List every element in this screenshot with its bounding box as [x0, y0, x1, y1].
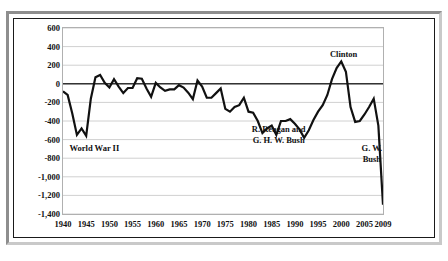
- x-tick-1995: 1995: [310, 219, 327, 229]
- y-tick-200: 200: [14, 60, 60, 70]
- y-tick--1000: -1,000: [14, 172, 60, 182]
- x-tick-1990: 1990: [286, 219, 303, 229]
- annotation-gwbush-line1: G. W.: [362, 143, 383, 154]
- x-tick-1940: 1940: [55, 219, 72, 229]
- x-tick-1945: 1945: [78, 219, 95, 229]
- annotation-reagan-bush: R. Reagan and G. H. W. Bush: [252, 124, 306, 146]
- x-tick-1965: 1965: [170, 219, 187, 229]
- y-tick--1400: -1,400: [14, 209, 60, 219]
- x-tick-2005: 2005: [356, 219, 373, 229]
- y-tick--1200: -1,200: [14, 190, 60, 200]
- y-tick--600: -600: [14, 135, 60, 145]
- annotation-reagan-line1: R. Reagan and: [252, 124, 306, 135]
- annotation-world-war-ii: World War II: [69, 143, 119, 154]
- y-tick-400: 400: [14, 42, 60, 52]
- y-tick--400: -400: [14, 116, 60, 126]
- annotation-gwbush-line2: Bush: [362, 154, 383, 165]
- x-tick-1970: 1970: [194, 219, 211, 229]
- x-tick-1955: 1955: [124, 219, 141, 229]
- annotation-clinton: Clinton: [330, 49, 357, 60]
- x-tick-1960: 1960: [147, 219, 164, 229]
- x-axis-tick-labels: 1940194519501955196019651970197519801985…: [62, 219, 384, 235]
- x-tick-1985: 1985: [263, 219, 280, 229]
- plot-area: World War II R. Reagan and G. H. W. Bush…: [62, 27, 384, 215]
- y-tick--800: -800: [14, 153, 60, 163]
- y-tick-600: 600: [14, 23, 60, 33]
- x-tick-1980: 1980: [240, 219, 257, 229]
- annotation-gw-bush: G. W. Bush: [362, 143, 383, 165]
- x-tick-1950: 1950: [101, 219, 118, 229]
- y-tick--200: -200: [14, 97, 60, 107]
- x-tick-2009: 2009: [375, 219, 392, 229]
- x-tick-2000: 2000: [333, 219, 350, 229]
- y-axis-tick-labels: 6004002000-200-400-600-800-1,000-1,200-1…: [8, 27, 60, 215]
- data-series-line: [63, 61, 383, 204]
- y-tick-0: 0: [14, 79, 60, 89]
- annotation-reagan-line2: G. H. W. Bush: [252, 135, 306, 146]
- x-tick-1975: 1975: [217, 219, 234, 229]
